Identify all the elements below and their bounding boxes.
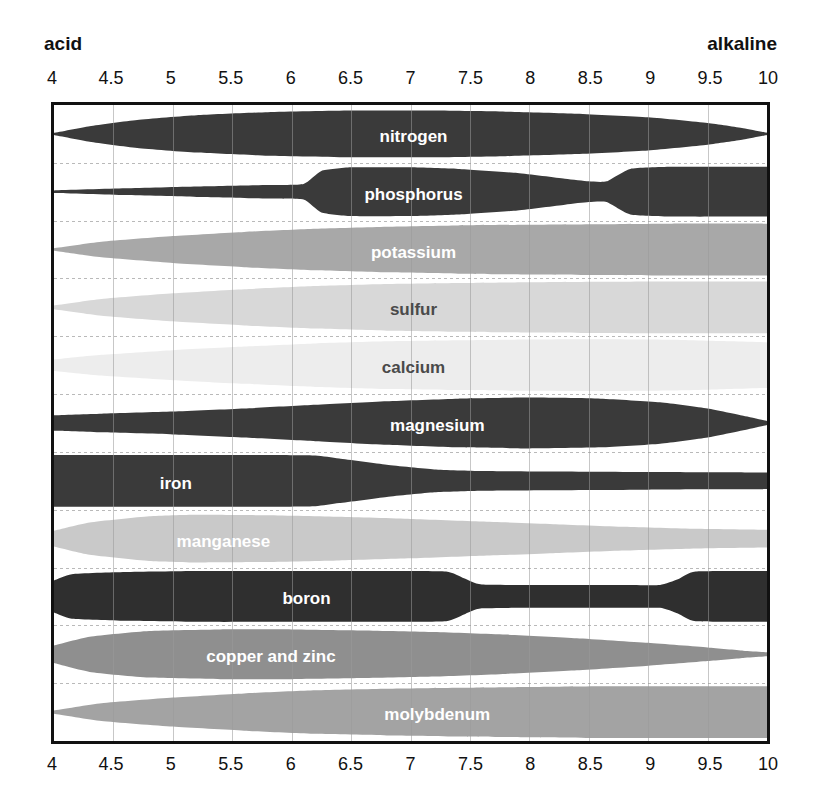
axis-tick-label: 5 [166, 68, 176, 89]
nutrient-band-manganese [54, 515, 767, 563]
band-shape-boron [54, 571, 767, 622]
band-shape-molybdenum [54, 686, 767, 738]
band-shape-manganese [54, 515, 767, 563]
axis-tick-label: 6.5 [338, 754, 363, 775]
acid-axis-label: acid [44, 33, 82, 55]
nutrient-band-magnesium [54, 398, 767, 449]
ph-nutrient-availability-chart: acid alkaline 44.555.566.577.588.599.510… [0, 0, 820, 804]
axis-tick-label: 7 [405, 68, 415, 89]
axis-tick-label: 5.5 [218, 754, 243, 775]
nutrient-band-potassium [54, 224, 767, 276]
axis-tick-label: 5.5 [218, 68, 243, 89]
nutrient-band-iron [54, 455, 767, 507]
axis-tick-label: 6.5 [338, 68, 363, 89]
axis-tick-label: 7.5 [458, 754, 483, 775]
band-shape-copper-and-zinc [54, 629, 767, 679]
band-shape-magnesium [54, 398, 767, 449]
nutrient-bands-svg [54, 105, 767, 741]
axis-tick-label: 4.5 [98, 754, 123, 775]
axis-tick-label: 5 [166, 754, 176, 775]
band-shape-phosphorus [54, 167, 767, 217]
band-shape-calcium [54, 339, 767, 391]
nutrient-band-sulfur [54, 281, 767, 333]
band-shape-nitrogen [54, 111, 767, 158]
axis-tick-label: 8.5 [578, 754, 603, 775]
axis-tick-label: 6 [286, 68, 296, 89]
axis-tick-label: 7.5 [458, 68, 483, 89]
band-shape-sulfur [54, 281, 767, 333]
nutrient-band-phosphorus [54, 167, 767, 217]
axis-tick-label: 4.5 [98, 68, 123, 89]
axis-tick-label: 6 [286, 754, 296, 775]
top-axis-tick-row: 44.555.566.577.588.599.510 [0, 68, 820, 92]
band-shape-iron [54, 455, 767, 507]
axis-tick-label: 8 [525, 68, 535, 89]
axis-tick-label: 10 [758, 68, 778, 89]
axis-tick-label: 9 [645, 754, 655, 775]
axis-tick-label: 8.5 [578, 68, 603, 89]
nutrient-band-copper-and-zinc [54, 629, 767, 679]
band-shape-potassium [54, 224, 767, 276]
bottom-axis-tick-row: 44.555.566.577.588.599.510 [0, 754, 820, 778]
axis-tick-label: 9.5 [698, 754, 723, 775]
axis-tick-label: 4 [47, 68, 57, 89]
nutrient-band-boron [54, 571, 767, 622]
axis-tick-label: 8 [525, 754, 535, 775]
alkaline-axis-label: alkaline [707, 33, 777, 55]
nutrient-band-calcium [54, 339, 767, 391]
axis-tick-label: 4 [47, 754, 57, 775]
plot-area: nitrogenphosphoruspotassiumsulfurcalcium… [51, 102, 770, 744]
axis-tick-label: 7 [405, 754, 415, 775]
axis-tick-label: 9 [645, 68, 655, 89]
nutrient-band-molybdenum [54, 686, 767, 738]
nutrient-band-nitrogen [54, 111, 767, 158]
axis-tick-label: 9.5 [698, 68, 723, 89]
axis-tick-label: 10 [758, 754, 778, 775]
